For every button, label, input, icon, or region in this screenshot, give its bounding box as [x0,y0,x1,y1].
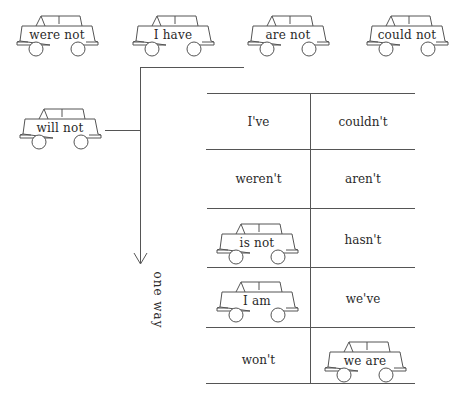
car-label: will not [17,121,103,135]
car-label: I have [130,28,216,42]
table-cell: weren't [207,172,310,186]
car-label: is not [214,236,300,250]
table-cell: won't [207,353,310,367]
car-were-not: were not [14,14,100,58]
car-we-are: we are [322,340,408,384]
car-could-not: could not [364,14,450,58]
table-line [207,93,415,94]
car-is-not: is not [214,222,300,266]
road-top-line [140,67,244,68]
car-i-have: I have [130,14,216,58]
one-way-label: one way [151,270,165,330]
table-cell: aren't [311,172,415,186]
arrow-down-icon [133,252,148,266]
table-cell: we've [311,292,415,306]
table-cell: I've [207,115,310,129]
car-are-not: are not [245,14,331,58]
table-line [207,267,415,268]
car-label: I am [214,294,300,308]
table-cell: couldn't [311,115,415,129]
road-vertical-line [140,67,141,263]
car-label: we are [322,354,408,368]
table-line [207,208,415,209]
car-will-not: will not [17,107,103,151]
side-connector-line [105,130,140,131]
car-label: were not [14,28,100,42]
car-i-am: I am [214,280,300,324]
table-cell: hasn't [311,233,415,247]
car-label: could not [364,28,450,42]
car-label: are not [245,28,331,42]
